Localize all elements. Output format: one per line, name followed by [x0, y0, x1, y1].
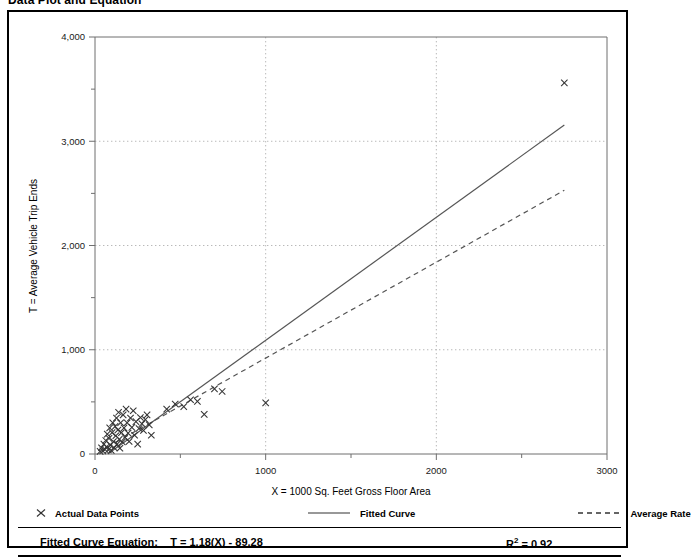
y-tick-label: 0: [80, 448, 85, 459]
x-tick-label: 2000: [426, 465, 447, 476]
r-squared-number: = 0.92: [521, 538, 552, 550]
x-axis-title: X = 1000 Sq. Feet Gross Floor Area: [271, 486, 431, 497]
equation-value: T = 1.18(X) - 89.28: [170, 536, 263, 548]
chart-panel: 010002000300001,0002,0003,0004,000 X = 1…: [7, 10, 628, 548]
equation-label: Fitted Curve Equation:: [40, 536, 158, 548]
y-tick-label: 1,000: [61, 344, 85, 355]
y-axis-title: T = Average Vehicle Trip Ends: [28, 179, 39, 313]
data-plot: 010002000300001,0002,0003,0004,000 X = 1…: [9, 12, 626, 546]
y-tick-label: 3,000: [61, 136, 85, 147]
r-squared-exponent: 2: [514, 536, 518, 545]
legend-label-fitted-curve: Fitted Curve: [360, 508, 415, 519]
x-tick-label: 1000: [255, 465, 276, 476]
equation-row: Fitted Curve Equation: T = 1.18(X) - 89.…: [18, 531, 621, 555]
y-tick-label: 2,000: [61, 240, 85, 251]
x-tick-label: 0: [92, 465, 97, 476]
chart-legend: Actual Data Points Fitted Curve Average …: [18, 500, 621, 526]
legend-item-average-rate: Average Rate: [577, 507, 690, 519]
y-tick-label: 4,000: [61, 31, 85, 42]
r-squared-value: R2 = 0.92: [506, 536, 552, 550]
equation-divider: [18, 527, 621, 528]
x-tick-label: 3000: [596, 465, 617, 476]
dashed-line-icon: [577, 507, 621, 519]
r-squared-label: R: [506, 538, 514, 550]
solid-line-icon: [307, 507, 351, 519]
x-marker-icon: [34, 507, 48, 519]
page-title: Data Plot and Equation: [8, 0, 142, 7]
fitted-curve-equation: Fitted Curve Equation: T = 1.18(X) - 89.…: [40, 536, 263, 548]
legend-item-actual-data-points: Actual Data Points: [34, 507, 139, 519]
legend-label-average-rate: Average Rate: [630, 508, 690, 519]
legend-item-fitted-curve: Fitted Curve: [307, 507, 415, 519]
legend-label-actual-data-points: Actual Data Points: [55, 508, 139, 519]
